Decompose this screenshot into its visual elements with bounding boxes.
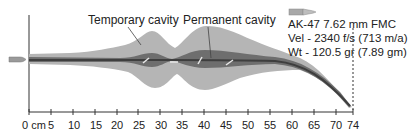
tick-label: 0 cm — [22, 120, 46, 131]
tick-label: 65 — [308, 120, 320, 131]
tick-label: 5 — [48, 120, 54, 131]
tick-label: 35 — [176, 120, 188, 131]
tick-label: 20 — [111, 120, 123, 131]
tick-label: 40 — [198, 120, 210, 131]
bullet-icon — [289, 9, 316, 15]
permanent-cavity-label: Permanent cavity — [183, 14, 276, 26]
projectile-weight: Wt - 120.5 gr (7.89 gm) — [288, 47, 407, 59]
temporary-cavity-label: Temporary cavity — [88, 14, 179, 26]
tick-label: 70 — [330, 120, 342, 131]
tick-label: 15 — [90, 120, 102, 131]
tick-label: 45 — [220, 120, 232, 131]
incoming-bullet-icon — [9, 57, 26, 62]
projectile-velocity: Vel - 2340 f/s (713 m/a) — [288, 33, 408, 45]
tick-label: 25 — [133, 120, 145, 131]
tick-label: 60 — [286, 120, 298, 131]
tick-label: 30 — [155, 120, 167, 131]
tick-label: 50 — [242, 120, 254, 131]
tick-label: 55 — [264, 120, 276, 131]
tick-label: 10 — [68, 120, 80, 131]
projectile-name: AK-47 7.62 mm FMC — [288, 19, 396, 31]
tick-label: 74 — [347, 120, 359, 131]
